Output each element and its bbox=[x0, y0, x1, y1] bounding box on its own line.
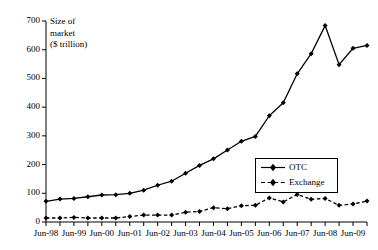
legend-item-otc: OTC bbox=[260, 160, 307, 175]
y-axis-tick-label: 400 bbox=[2, 102, 40, 111]
legend-label-otc: OTC bbox=[289, 162, 307, 173]
y-axis-tick-label: 600 bbox=[2, 45, 40, 54]
y-axis-tick-label: 100 bbox=[2, 188, 40, 197]
legend-item-exchange: Exchange bbox=[260, 175, 324, 190]
legend-sample-solid-line-icon bbox=[260, 162, 286, 173]
y-axis-tick-label: 200 bbox=[2, 160, 40, 169]
y-axis-title: Size of market ($ trillion) bbox=[50, 16, 87, 51]
y-axis-tick-label: 700 bbox=[2, 16, 40, 25]
chart-container: 0100200300400500600700 Jun-98Jun-99Jun-0… bbox=[0, 0, 378, 250]
chart-axes bbox=[42, 21, 367, 226]
y-axis-tick-label: 0 bbox=[2, 217, 40, 226]
legend-label-exchange: Exchange bbox=[289, 177, 324, 188]
legend-sample-dashed-line-icon bbox=[260, 177, 286, 188]
x-axis-tick-label: Jun-09 bbox=[333, 229, 373, 238]
chart-legend: OTC Exchange bbox=[255, 158, 338, 193]
y-axis-tick-label: 300 bbox=[2, 131, 40, 140]
y-axis-tick-label: 500 bbox=[2, 73, 40, 82]
